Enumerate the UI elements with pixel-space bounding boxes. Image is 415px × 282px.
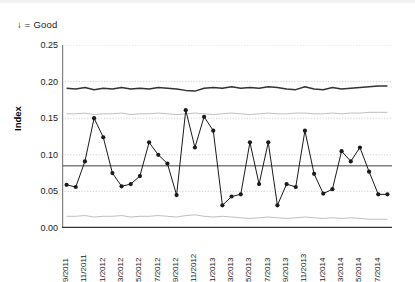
data-point <box>202 115 206 119</box>
data-point <box>239 192 243 196</box>
x-tick-label: 1/2013 <box>208 258 217 282</box>
x-tick-label: 9/2012 <box>171 258 180 282</box>
data-point <box>339 149 343 153</box>
data-point <box>129 182 133 186</box>
x-axis-tick-labels: 9/201111/20111/20123/20125/20127/20129/2… <box>62 231 392 282</box>
data-point <box>284 182 288 186</box>
x-tick-label: 7/2013 <box>263 258 272 282</box>
data-point <box>74 185 78 189</box>
control-limit-line <box>67 112 388 114</box>
data-point <box>110 171 114 175</box>
data-point <box>83 159 87 163</box>
y-tick-label: 0.10 <box>22 150 58 160</box>
x-tick-label: 3/2012 <box>116 258 125 282</box>
x-tick-label: 5/2013 <box>244 258 253 282</box>
y-tick-label: 0.05 <box>22 186 58 196</box>
data-point <box>92 116 96 120</box>
data-point <box>248 140 252 144</box>
data-point <box>193 145 197 149</box>
x-tick-label: 1/2012 <box>98 258 107 282</box>
x-tick-label: 3/2014 <box>336 258 345 282</box>
data-point <box>321 192 325 196</box>
data-point <box>275 203 279 207</box>
data-point <box>220 203 224 207</box>
upper-reference-line <box>67 86 388 91</box>
x-tick-label: 7/2012 <box>153 258 162 282</box>
data-point <box>174 193 178 197</box>
data-point <box>211 129 215 133</box>
data-point <box>303 129 307 133</box>
x-tick-label: 11/2011 <box>79 254 88 282</box>
x-tick-label: 11/2013 <box>299 254 308 282</box>
y-axis-tick-labels: 0.250.200.150.100.050.00 <box>20 0 58 282</box>
control-chart: ↓ = Good Index 0.250.200.150.100.050.00 … <box>0 0 415 282</box>
x-tick-label: 7/2014 <box>373 258 382 282</box>
x-tick-label: 5/2012 <box>134 258 143 282</box>
y-tick-label: 0.15 <box>22 113 58 123</box>
control-limit-line <box>67 215 388 219</box>
plot-svg <box>62 45 392 228</box>
data-point <box>64 183 68 187</box>
data-point <box>257 182 261 186</box>
data-point <box>367 170 371 174</box>
data-point <box>385 192 389 196</box>
data-point <box>294 185 298 189</box>
data-point <box>165 161 169 165</box>
x-tick-label: 3/2013 <box>226 258 235 282</box>
x-tick-label: 5/2014 <box>354 258 363 282</box>
y-tick-label: 0.00 <box>22 223 58 233</box>
data-point <box>229 194 233 198</box>
x-tick-label: 1/2014 <box>318 258 327 282</box>
data-point <box>156 153 160 157</box>
y-tick-label: 0.25 <box>22 40 58 50</box>
x-tick-label: 11/2012 <box>189 254 198 282</box>
data-point <box>358 145 362 149</box>
x-tick-label: 9/2013 <box>281 258 290 282</box>
plot-area <box>62 45 392 228</box>
data-point <box>184 108 188 112</box>
data-point <box>138 174 142 178</box>
top-border <box>0 0 415 3</box>
data-point <box>330 187 334 191</box>
data-point <box>349 159 353 163</box>
data-point <box>147 140 151 144</box>
data-point <box>312 172 316 176</box>
x-tick-label: 9/2011 <box>61 258 70 282</box>
data-point <box>376 192 380 196</box>
y-tick-label: 0.20 <box>22 77 58 87</box>
data-point <box>119 184 123 188</box>
data-point <box>101 135 105 139</box>
data-point <box>266 140 270 144</box>
